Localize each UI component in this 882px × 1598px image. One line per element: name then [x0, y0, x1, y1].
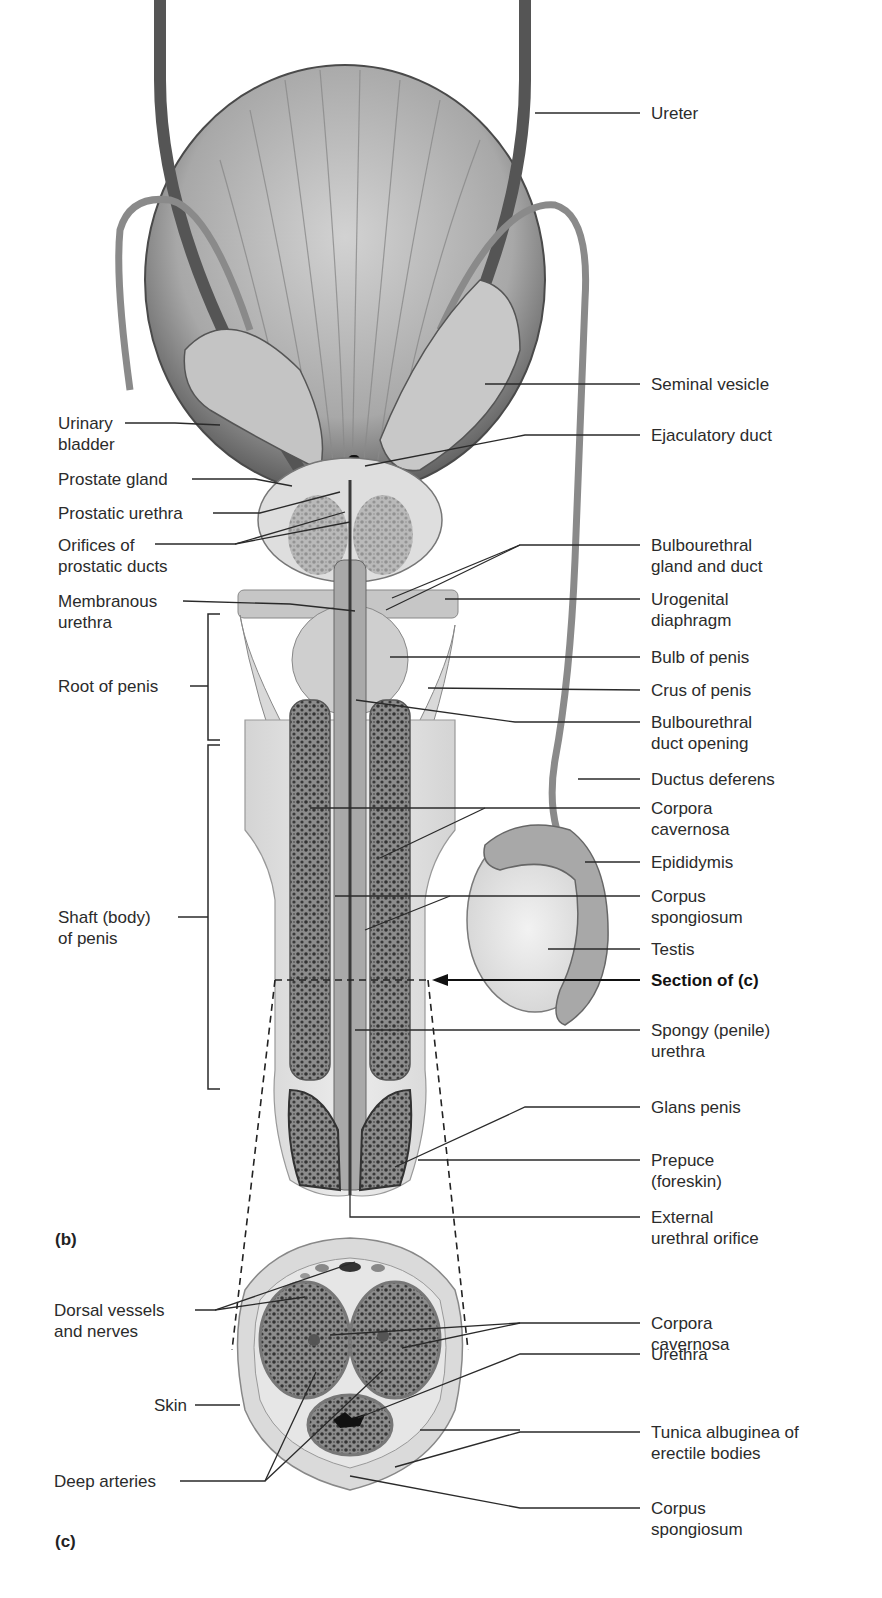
label-prostatic-urethra: Prostatic urethra: [58, 503, 183, 524]
leader-external-urethral-orifice: [350, 1195, 640, 1217]
label-membranous-urethra: Membranous urethra: [58, 591, 157, 633]
arrowhead-section: [432, 974, 448, 986]
label-shaft-of-penis: Shaft (body) of penis: [58, 907, 151, 949]
label-ductus-deferens: Ductus deferens: [651, 769, 775, 790]
anatomy-illustration: [0, 0, 882, 1598]
label-root-of-penis: Root of penis: [58, 676, 158, 697]
deep-artery-left: [308, 1334, 320, 1346]
label-prepuce: Prepuce (foreskin): [651, 1150, 722, 1192]
cc-left-section: [260, 1282, 350, 1398]
label-spongy-urethra: Spongy (penile) urethra: [651, 1020, 770, 1062]
label-external-urethral-orifice: External urethral orifice: [651, 1207, 759, 1249]
leader-c-corpus-spongiosum: [350, 1476, 640, 1508]
root-bracket: [208, 614, 220, 740]
dorsal-artery-right: [371, 1264, 385, 1272]
label-orifices-prostatic-ducts: Orifices of prostatic ducts: [58, 535, 168, 577]
label-tunica-albuginea: Tunica albuginea of erectile bodies: [651, 1422, 799, 1464]
label-corpus-spongiosum-b: Corpus spongiosum: [651, 886, 743, 928]
label-section-of-c: Section of (c): [651, 970, 759, 991]
anatomy-figure: (b) (c) Urinary bladder Prostate gland P…: [0, 0, 882, 1598]
label-urinary-bladder: Urinary bladder: [58, 413, 115, 455]
label-testis: Testis: [651, 939, 694, 960]
leader-glans-penis: [395, 1107, 640, 1167]
label-ejaculatory-duct: Ejaculatory duct: [651, 425, 772, 446]
label-urethra-c: Urethra: [651, 1344, 708, 1365]
label-dorsal-vessels-nerves: Dorsal vessels and nerves: [54, 1300, 165, 1342]
corpus-cavernosum-right: [370, 700, 410, 1080]
label-epididymis: Epididymis: [651, 852, 733, 873]
label-bulbourethral-gland-duct: Bulbourethral gland and duct: [651, 535, 763, 577]
panel-tag-c: (c): [55, 1532, 76, 1552]
dorsal-artery-left: [315, 1264, 329, 1272]
label-seminal-vesicle: Seminal vesicle: [651, 374, 769, 395]
label-crus-of-penis: Crus of penis: [651, 680, 751, 701]
label-bulbourethral-duct-opening: Bulbourethral duct opening: [651, 712, 752, 754]
cc-right-section: [350, 1282, 440, 1398]
label-skin: Skin: [154, 1395, 187, 1416]
label-corpus-spongiosum-c: Corpus spongiosum: [651, 1498, 743, 1540]
leader-crus-of-penis: [428, 688, 640, 690]
label-deep-arteries: Deep arteries: [54, 1471, 156, 1492]
label-bulb-of-penis: Bulb of penis: [651, 647, 749, 668]
label-glans-penis: Glans penis: [651, 1097, 741, 1118]
corpus-cavernosum-left: [290, 700, 330, 1080]
label-prostate-gland: Prostate gland: [58, 469, 168, 490]
cross-section: [238, 1238, 463, 1490]
label-urogenital-diaphragm: Urogenital diaphragm: [651, 589, 731, 631]
label-corpora-cavernosa-b: Corpora cavernosa: [651, 798, 729, 840]
shaft-bracket: [208, 745, 220, 1089]
label-ureter: Ureter: [651, 103, 698, 124]
panel-tag-b: (b): [55, 1230, 77, 1250]
